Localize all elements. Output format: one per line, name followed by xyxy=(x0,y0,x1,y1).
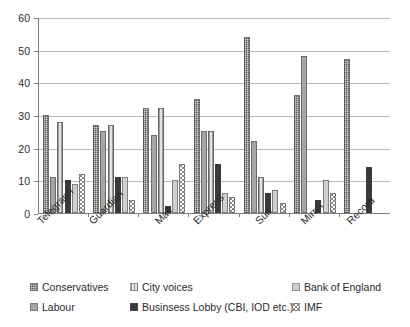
bar xyxy=(344,59,350,213)
bar-group xyxy=(290,18,340,213)
legend-row-bottom: LabourBusinsess Lobby (CBI, IOD etc.)IMF xyxy=(30,301,395,320)
bar-group xyxy=(89,18,139,213)
chart-legend: ConservativesCity voicesBank of England … xyxy=(30,281,395,323)
x-label-cell: Guardian xyxy=(88,216,138,278)
bar xyxy=(301,56,307,213)
bar xyxy=(179,164,185,213)
bar-groups xyxy=(39,18,390,213)
bar xyxy=(280,203,286,213)
bar xyxy=(244,37,250,213)
y-tick-label: 30 xyxy=(18,111,30,121)
legend-item[interactable]: Bank of England xyxy=(292,281,381,293)
bar xyxy=(294,95,300,213)
x-label-cell: Express xyxy=(189,216,239,278)
legend-swatch-icon xyxy=(130,283,138,291)
legend-label: IMF xyxy=(304,301,322,313)
bar xyxy=(272,190,278,213)
bar-chart: 6050403020100 TelegraphGuardianMailExpre… xyxy=(0,0,410,327)
bar xyxy=(172,180,178,213)
legend-item[interactable]: Labour xyxy=(30,301,75,313)
legend-swatch-icon xyxy=(292,283,300,291)
legend-swatch-icon xyxy=(130,303,138,311)
bar-group xyxy=(240,18,290,213)
bar xyxy=(43,115,49,213)
x-label-cell: Sun xyxy=(239,216,289,278)
x-label-cell: Telegraph xyxy=(38,216,88,278)
bar xyxy=(330,193,336,213)
bar xyxy=(79,174,85,213)
legend-label: Businsess Lobby (CBI, IOD etc.) xyxy=(142,301,293,313)
bar xyxy=(158,108,164,213)
x-label-cell: Mail xyxy=(139,216,189,278)
y-axis: 6050403020100 xyxy=(0,18,34,214)
legend-label: Bank of England xyxy=(304,281,381,293)
legend-item[interactable]: Businsess Lobby (CBI, IOD etc.) xyxy=(130,301,293,313)
x-axis-labels: TelegraphGuardianMailExpressSunMirrorRec… xyxy=(38,216,390,278)
legend-swatch-icon xyxy=(30,303,38,311)
bar xyxy=(229,197,235,213)
legend-row-top: ConservativesCity voicesBank of England xyxy=(30,281,395,300)
bar-group xyxy=(139,18,189,213)
bar xyxy=(72,184,78,213)
y-tick-label: 60 xyxy=(18,13,30,23)
legend-item[interactable]: Conservatives xyxy=(30,281,109,293)
bar-group xyxy=(189,18,239,213)
bar xyxy=(251,141,257,213)
plot-area xyxy=(38,18,390,214)
x-label-cell: Mirror xyxy=(289,216,339,278)
y-tick-label: 50 xyxy=(18,46,30,56)
bar-group xyxy=(340,18,390,213)
legend-label: Conservatives xyxy=(42,281,109,293)
y-tick-label: 10 xyxy=(18,176,30,186)
bar xyxy=(93,125,99,213)
legend-swatch-icon xyxy=(30,283,38,291)
y-tick-label: 40 xyxy=(18,78,30,88)
legend-item[interactable]: IMF xyxy=(292,301,322,313)
legend-swatch-icon xyxy=(292,303,300,311)
legend-label: Labour xyxy=(42,301,75,313)
bar xyxy=(129,200,135,213)
bar xyxy=(151,135,157,213)
x-label-cell: Record xyxy=(340,216,390,278)
legend-item[interactable]: City voices xyxy=(130,281,193,293)
bar xyxy=(194,99,200,213)
y-tick-label: 20 xyxy=(18,144,30,154)
y-tick-label: 0 xyxy=(24,209,30,219)
legend-label: City voices xyxy=(142,281,193,293)
bar xyxy=(143,108,149,213)
bar-group xyxy=(39,18,89,213)
